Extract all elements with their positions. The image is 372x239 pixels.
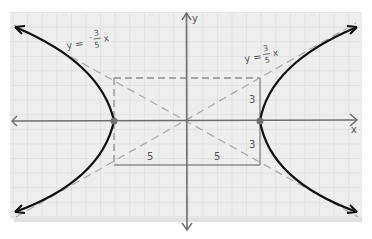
box-label-lower-height: 3 <box>249 139 255 150</box>
y-axis-label: y <box>192 13 198 24</box>
box-label-left-width: 5 <box>147 151 153 162</box>
y-axis <box>187 13 188 230</box>
vertex-left <box>111 118 118 125</box>
x-axis <box>13 120 356 121</box>
vertex-right <box>257 118 264 125</box>
box-label-right-width: 5 <box>214 151 220 162</box>
box-label-upper-height: 3 <box>249 94 255 105</box>
x-axis-label: x <box>351 124 357 135</box>
hyperbola-diagram: y x y = - 3 5 x y = 3 5 x 5 5 3 3 <box>0 0 372 239</box>
